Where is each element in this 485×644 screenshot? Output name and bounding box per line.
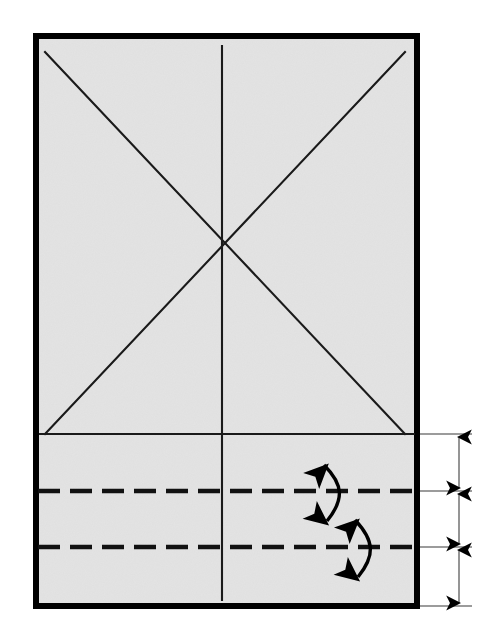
paper-sheet-grain xyxy=(39,39,414,603)
dimension-extension-lines-group xyxy=(420,434,472,606)
paper-folding-diagram xyxy=(0,0,485,644)
figure-canvas xyxy=(0,0,485,644)
paper-sheet-group xyxy=(36,36,417,606)
